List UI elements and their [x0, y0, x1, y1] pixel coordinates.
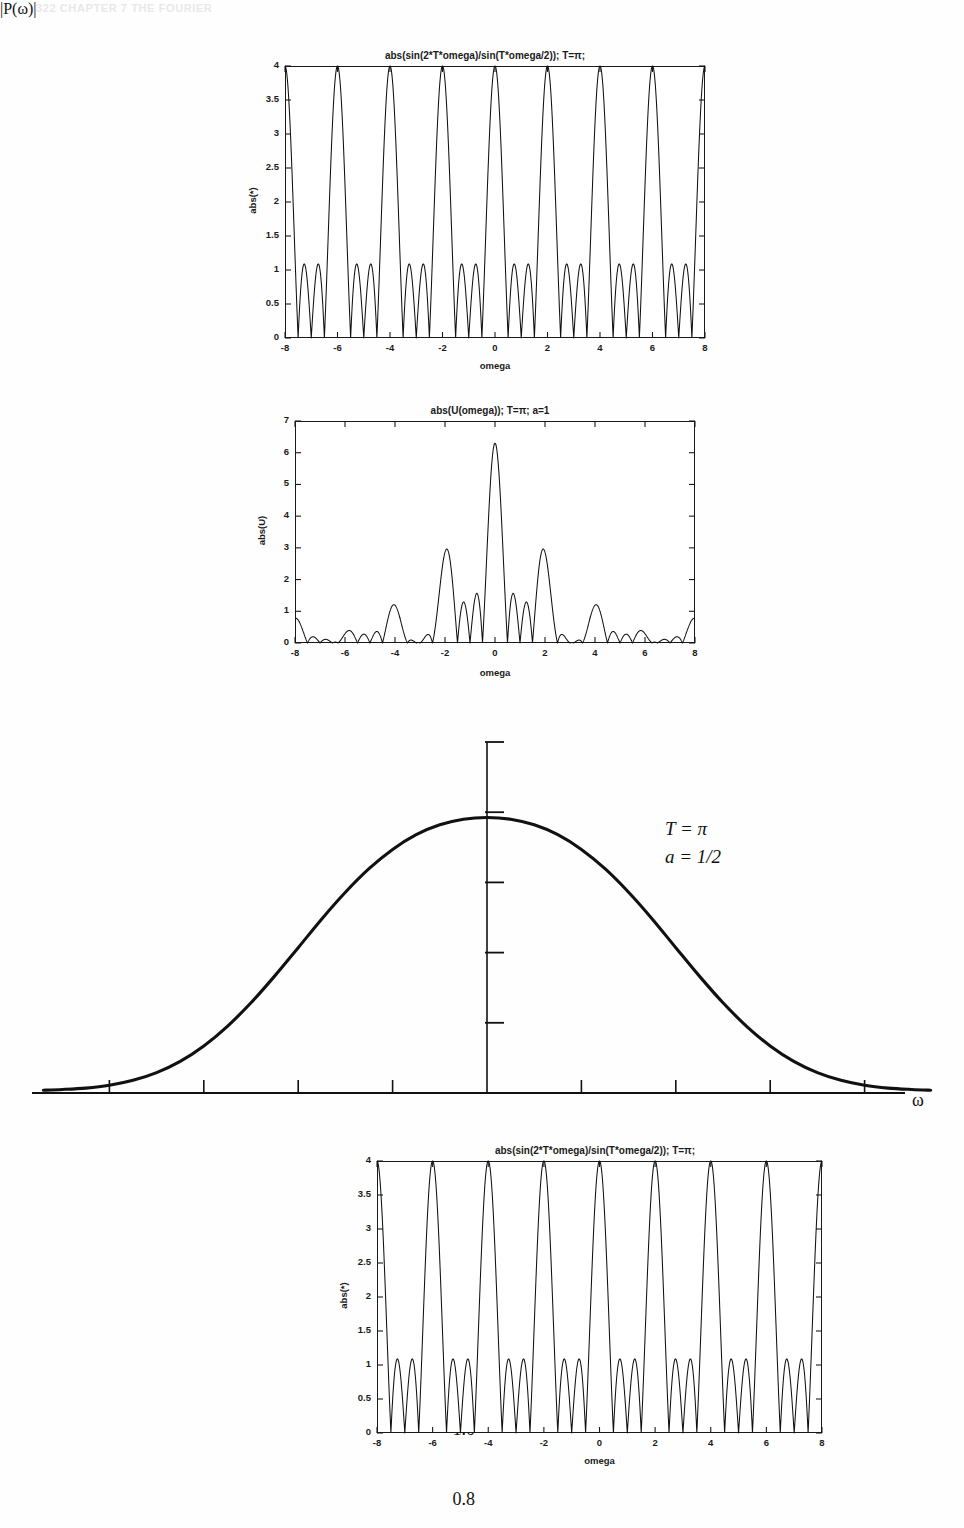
bottom-xtick-label: -8	[359, 1437, 395, 1448]
bottom-ytick-label: 2.5	[331, 1256, 371, 1267]
bottom-ytick-label: 2	[331, 1290, 371, 1301]
bottom-ytick-label: 0.5	[331, 1392, 371, 1403]
bottom-xtick-label: 0	[582, 1437, 618, 1448]
bottom-ytick-label: 1	[331, 1358, 371, 1369]
bottom-xtick-label: -6	[415, 1437, 451, 1448]
figure-bottom-curve	[315, 1145, 875, 1485]
bottom-ytick-label: 3	[331, 1222, 371, 1233]
bottom-ytick-label: 3.5	[331, 1188, 371, 1199]
bottom-ytick-label: 1.5	[331, 1324, 371, 1335]
bottom-xtick-label: 6	[748, 1437, 784, 1448]
bottom-xtick-label: 4	[693, 1437, 729, 1448]
bottom-ytick-label: 0	[331, 1426, 371, 1437]
bottom-ytick-label: 4	[331, 1154, 371, 1165]
figure-bottom-dirichlet-kernel: abs(sin(2*T*omega)/sin(T*omega/2)); T=π;…	[315, 1145, 875, 1485]
bottom-xtick-label: -2	[526, 1437, 562, 1448]
scanned-page: 322 CHAPTER 7 THE FOURIER abs(sin(2*T*om…	[0, 0, 964, 1528]
bottom-xtick-label: 8	[804, 1437, 840, 1448]
bottom-xtick-label: -4	[470, 1437, 506, 1448]
bottom-xtick-label: 2	[637, 1437, 673, 1448]
